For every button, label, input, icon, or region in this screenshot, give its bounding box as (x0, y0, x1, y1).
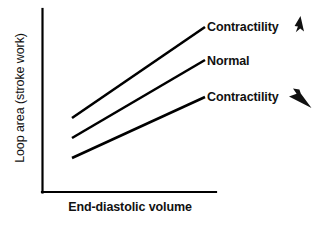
arrow-up-icon (295, 16, 304, 32)
series-label-decreased-contractility: Contractility (207, 91, 279, 104)
x-axis-label: End-diastolic volume (42, 200, 218, 214)
y-axis-label-container: Loop area (stroke work) (0, 0, 40, 196)
series-label-normal: Normal (207, 55, 249, 68)
chart-figure: Loop area (stroke work) End-diastolic vo… (0, 0, 326, 226)
y-axis-label: Loop area (stroke work) (13, 33, 27, 163)
arrow-down-icon (289, 89, 312, 109)
series-label-increased-contractility: Contractility (207, 21, 279, 34)
